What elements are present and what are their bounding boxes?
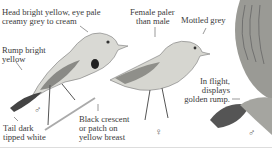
female-bird xyxy=(110,41,210,120)
label-female-line2: than male xyxy=(136,17,170,27)
label-mottled: Mottled grey xyxy=(181,16,226,26)
bird-illustration: Head bright yellow, eye pale creamy grey… xyxy=(0,0,272,151)
label-head-line2: creamy grey to cream xyxy=(2,17,77,27)
male-symbol-left: ♂ xyxy=(34,104,42,115)
label-flight-line3: golden rump. xyxy=(184,95,230,105)
female-symbol: ♀ xyxy=(155,126,163,137)
male-symbol-right: ♂ xyxy=(248,127,256,138)
label-rump-line2: yellow xyxy=(2,55,25,65)
bottom-divider xyxy=(0,147,272,148)
label-crescent-line3: yellow breast xyxy=(79,133,125,143)
label-tail-line2: tipped white xyxy=(3,133,46,143)
